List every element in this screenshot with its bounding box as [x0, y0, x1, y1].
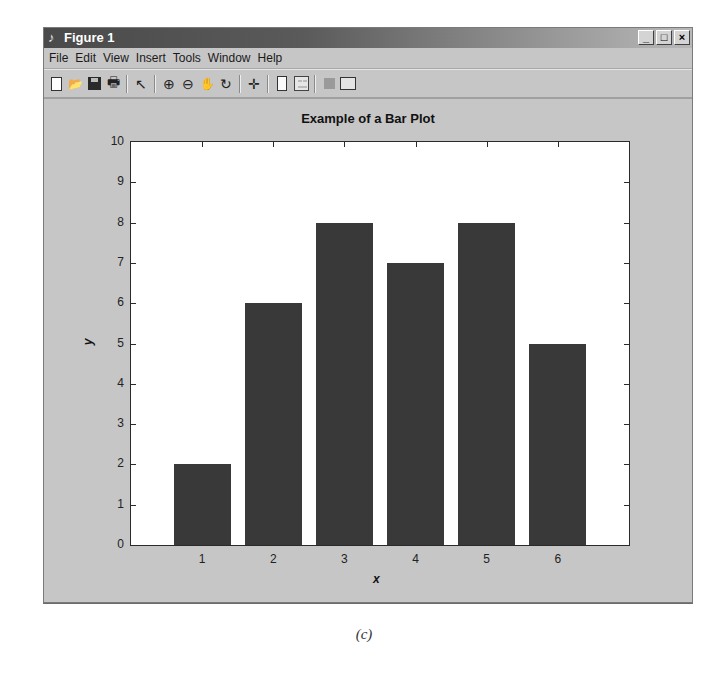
save-figure-button[interactable]	[86, 76, 102, 92]
window-title: Figure 1	[64, 30, 115, 46]
colorbar-icon	[277, 76, 287, 91]
figure-toolbar: 📂 🖶 ↖ ⊕ ⊖ ✋ ↻ ✛	[44, 69, 692, 99]
rotate-3d-button[interactable]: ↻	[218, 76, 234, 92]
x-tick-mark	[344, 142, 345, 147]
insert-colorbar-button[interactable]	[274, 76, 290, 92]
y-tick-mark	[624, 182, 629, 183]
x-tick-label: 4	[406, 552, 426, 566]
legend-icon	[294, 76, 309, 91]
chart-title: Example of a Bar Plot	[44, 111, 692, 126]
zoom-out-button[interactable]: ⊖	[180, 76, 196, 92]
x-tick-label: 6	[548, 552, 568, 566]
y-tick-mark	[131, 182, 136, 183]
new-page-icon	[51, 77, 62, 91]
open-file-button[interactable]: 📂	[67, 76, 83, 92]
y-tick-label: 10	[100, 134, 124, 148]
data-cursor-icon: ✛	[248, 76, 260, 92]
y-tick-mark	[624, 464, 629, 465]
show-plot-tools-button[interactable]	[340, 76, 356, 92]
y-tick-label: 3	[100, 416, 124, 430]
bar-6	[529, 344, 586, 546]
y-tick-label: 2	[100, 456, 124, 470]
menu-bar: File Edit View Insert Tools Window Help	[44, 48, 692, 69]
y-tick-mark	[624, 424, 629, 425]
pan-button[interactable]: ✋	[199, 76, 215, 92]
y-tick-mark	[131, 263, 136, 264]
y-tick-label: 8	[100, 215, 124, 229]
y-tick-label: 7	[100, 255, 124, 269]
y-axis-label: y	[81, 339, 95, 346]
x-tick-label: 1	[192, 552, 212, 566]
bar-1	[174, 464, 231, 545]
zoom-out-icon: ⊖	[182, 76, 194, 92]
minimize-button[interactable]: _	[638, 30, 654, 45]
data-cursor-button[interactable]: ✛	[246, 76, 262, 92]
insert-legend-button[interactable]	[293, 76, 309, 92]
figure-caption: (c)	[0, 626, 728, 643]
close-button[interactable]: ×	[674, 30, 690, 45]
toolbar-separator	[126, 75, 128, 93]
x-tick-mark	[416, 142, 417, 147]
hand-pan-icon: ✋	[200, 77, 215, 91]
y-tick-mark	[624, 223, 629, 224]
menu-insert[interactable]: Insert	[134, 49, 171, 67]
menu-view[interactable]: View	[101, 49, 134, 67]
menu-tools[interactable]: Tools	[171, 49, 206, 67]
pointer-arrow-icon: ↖	[135, 76, 147, 92]
menu-window[interactable]: Window	[206, 49, 256, 67]
y-tick-mark	[624, 384, 629, 385]
y-tick-mark	[131, 223, 136, 224]
bar-5	[458, 223, 515, 545]
maximize-button[interactable]: □	[656, 30, 672, 45]
bar-3	[316, 223, 373, 545]
y-tick-label: 4	[100, 376, 124, 390]
edit-plot-button[interactable]: ↖	[133, 76, 149, 92]
y-tick-mark	[131, 344, 136, 345]
y-tick-mark	[624, 263, 629, 264]
figure-window: ♪ Figure 1 _ □ × File Edit View Insert T…	[43, 27, 693, 603]
menu-edit[interactable]: Edit	[73, 49, 101, 67]
bar-4	[387, 263, 444, 545]
folder-open-icon: 📂	[68, 77, 83, 91]
menu-help[interactable]: Help	[256, 49, 288, 67]
x-tick-mark	[487, 142, 488, 147]
menu-file[interactable]: File	[47, 49, 73, 67]
y-tick-label: 9	[100, 174, 124, 188]
window-controls: _ □ ×	[638, 30, 690, 45]
y-tick-mark	[131, 464, 136, 465]
hide-tools-icon	[324, 78, 335, 89]
y-tick-mark	[624, 505, 629, 506]
x-tick-label: 5	[477, 552, 497, 566]
printer-icon: 🖶	[107, 72, 120, 96]
y-tick-label: 5	[100, 336, 124, 350]
hide-plot-tools-button[interactable]	[321, 76, 337, 92]
y-tick-label: 0	[100, 537, 124, 551]
toolbar-separator	[314, 75, 316, 93]
print-figure-button[interactable]: 🖶	[105, 76, 121, 92]
toolbar-separator	[267, 75, 269, 93]
plot-axes[interactable]	[130, 141, 630, 546]
y-tick-mark	[624, 344, 629, 345]
matlab-figure-icon: ♪	[48, 30, 62, 46]
x-tick-mark	[273, 142, 274, 147]
title-bar[interactable]: ♪ Figure 1 _ □ ×	[44, 28, 692, 48]
x-tick-label: 2	[263, 552, 283, 566]
y-tick-mark	[131, 505, 136, 506]
y-tick-mark	[131, 384, 136, 385]
bar-2	[245, 303, 302, 545]
x-tick-mark	[202, 142, 203, 147]
show-tools-icon	[340, 77, 356, 90]
save-disk-icon	[88, 77, 101, 90]
zoom-in-button[interactable]: ⊕	[161, 76, 177, 92]
toolbar-separator	[154, 75, 156, 93]
y-tick-mark	[131, 424, 136, 425]
y-tick-mark	[624, 303, 629, 304]
x-tick-mark	[558, 142, 559, 147]
x-axis-label: x	[373, 572, 380, 586]
new-figure-button[interactable]	[48, 76, 64, 92]
y-tick-mark	[131, 303, 136, 304]
y-tick-label: 6	[100, 295, 124, 309]
y-tick-label: 1	[100, 497, 124, 511]
zoom-in-icon: ⊕	[163, 76, 175, 92]
x-tick-label: 3	[334, 552, 354, 566]
